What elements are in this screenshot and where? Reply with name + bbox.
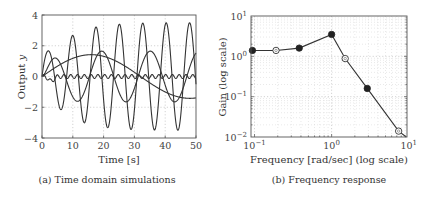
y-tick-label: 101 [230, 10, 247, 22]
x-tick-label: 10−1 [243, 139, 265, 151]
right-xlabel: Frequency [rad/sec] (log scale) [250, 154, 408, 165]
x-tick-label: 30 [128, 140, 140, 151]
left-caption: (a) Time domain simulations [38, 174, 175, 185]
x-tick-label: 100 [323, 139, 340, 151]
x-tick-label: 10 [67, 140, 79, 151]
filled-marker [364, 85, 370, 91]
right-ylabel: Gain (log scale) [217, 37, 228, 116]
y-tick-label: −2 [24, 102, 38, 113]
y-tick-label: 0 [32, 71, 38, 82]
open-marker [395, 128, 401, 134]
x-tick-label: 50 [190, 140, 202, 151]
filled-marker [249, 47, 255, 53]
left-ylabel: Output y [16, 54, 27, 99]
right-tick-labels: 10−110010110−210−1100101 [225, 10, 417, 152]
x-tick-label: 40 [159, 140, 171, 151]
y-tick-label: −4 [24, 133, 38, 144]
figure: 01020304050−4−2024 Time [s] Output y (a)… [0, 0, 429, 198]
left-xlabel: Time [s] [98, 154, 139, 165]
open-marker [273, 47, 279, 53]
series-line [42, 75, 196, 82]
x-tick-label: 101 [400, 139, 417, 151]
time-domain-plot: 01020304050−4−2024 Time [s] Output y (a)… [16, 10, 202, 186]
filled-marker [328, 31, 334, 37]
y-tick-label: 4 [32, 10, 38, 21]
frequency-response-plot: 10−110010110−210−1100101 Frequency [rad/… [217, 10, 417, 186]
x-tick-label: 20 [98, 140, 110, 151]
open-marker [342, 55, 348, 61]
right-caption: (b) Frequency response [272, 174, 387, 185]
x-tick-label: 0 [39, 140, 45, 151]
right-curve [249, 31, 406, 137]
filled-marker [296, 45, 302, 51]
y-tick-label: 100 [230, 50, 247, 62]
y-tick-label: 2 [32, 40, 38, 51]
